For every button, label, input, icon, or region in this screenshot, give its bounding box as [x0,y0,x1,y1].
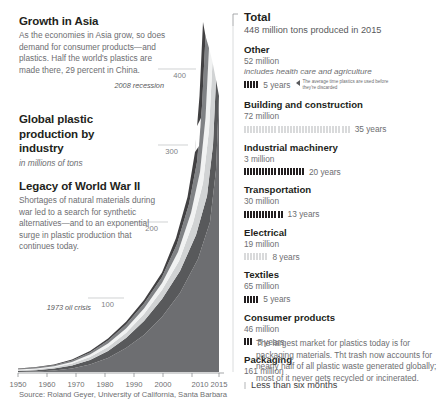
category-electrical: Electrical 19 million 8 years [244,227,444,263]
year-tick [281,168,283,175]
category-textiles: Textiles 65 million 5 years [244,269,444,305]
category-textiles-amount: 65 million [244,281,444,292]
year-tick [259,168,261,175]
year-tick [335,126,337,133]
total-label: Total [244,10,444,24]
year-tick [262,253,264,260]
xlabel-1960: 1960 [39,380,56,389]
year-tick [256,168,258,175]
year-tick [326,126,328,133]
block-growth-in-asia-body: As the economies in Asia grow, so does d… [19,30,169,76]
category-electrical-name: Electrical [244,227,444,239]
category-industrial-machinery-ticks [244,168,305,175]
category-consumer-products-ticks [244,338,253,345]
xlabel-2015: 2015 [211,380,228,389]
year-tick [259,211,261,218]
category-textiles-name: Textiles [244,269,444,281]
source-credit: Source: Roland Geyer, University of Cali… [19,390,227,399]
year-tick [271,168,273,175]
year-tick [338,126,340,133]
year-tick [244,81,246,88]
year-tick [271,126,273,133]
category-other: Other 52 million includes health care an… [244,44,444,90]
year-tick [247,338,249,345]
year-tick [274,211,276,218]
year-tick [253,296,255,303]
year-tick [314,126,316,133]
category-industrial-machinery-amount: 3 million [244,154,444,165]
right-column: Total 448 million tons produced in 2015 … [232,0,447,408]
year-tick [253,168,255,175]
total-block: Total 448 million tons produced in 2015 [244,10,444,36]
category-consumer-products-name: Consumer products [244,312,444,324]
category-other-name: Other [244,44,444,56]
year-tick [265,211,267,218]
year-tick [247,126,249,133]
year-tick [323,126,325,133]
year-tick [265,253,267,260]
xlabel-2010: 2010 [192,380,209,389]
category-packaging-ticks [244,382,247,389]
year-tick [293,126,295,133]
year-tick [256,253,258,260]
year-tick [247,168,249,175]
year-tick [296,168,298,175]
year-tick [278,168,280,175]
year-tick [271,211,273,218]
block-chart-heading-subtitle: in millions of tons [19,158,129,170]
category-building-and-construction-ticks [244,126,351,133]
category-other-bar-row: 5 years The average time plastics are us… [244,79,444,90]
year-tick [250,211,252,218]
xlabel-1990: 1990 [126,380,143,389]
year-tick [262,211,264,218]
year-tick [290,126,292,133]
category-industrial-machinery-bar-row: 20 years [244,166,444,177]
block-growth-in-asia-title: Growth in Asia [19,14,169,28]
category-building-and-construction-amount: 72 million [244,111,444,122]
annotation-2008-recession: 2008 recession [114,81,165,90]
year-tick [305,126,307,133]
block-chart-heading-title: Global plastic production by industry [19,112,129,156]
year-tick [278,126,280,133]
category-electrical-bar-row: 8 years [244,251,444,262]
year-tick [302,126,304,133]
year-tick [247,81,249,88]
year-tick [302,168,304,175]
xlabel-1980: 1980 [97,380,114,389]
category-electrical-years: 8 years [272,252,299,262]
year-tick [256,81,258,88]
block-legacy-wwii-title: Legacy of World War II [19,179,169,193]
category-other-note: includes health care and agriculture [244,67,444,78]
year-tick [274,126,276,133]
category-transportation-ticks [244,211,284,218]
year-tick [342,126,344,133]
x-axis-ticks [18,373,219,377]
year-tick [296,126,298,133]
year-tick [250,81,252,88]
category-transportation-bar-row: 13 years [244,209,444,220]
category-textiles-years: 5 years [263,294,290,304]
year-tick [250,168,252,175]
gridlabel-100: 100 [101,300,114,309]
block-growth-in-asia: Growth in Asia As the economies in Asia … [19,14,169,76]
category-textiles-bar-row: 5 years [244,294,444,305]
category-transportation: Transportation 30 million 13 years [244,184,444,220]
category-other-years: 5 years [263,80,290,90]
year-tick [284,168,286,175]
year-tick [281,126,283,133]
year-tick [250,253,252,260]
year-tick [281,211,283,218]
year-tick [268,126,270,133]
category-industrial-machinery-years: 20 years [309,167,341,177]
year-tick [247,211,249,218]
gridlabel-300: 300 [165,147,178,156]
year-tick [253,81,255,88]
year-tick [256,296,258,303]
industry-category-list: Total 448 million tons produced in 2015 … [244,10,444,392]
year-tick [262,168,264,175]
callout-arrow-icon [296,80,300,86]
year-tick [299,126,301,133]
xlabel-2000: 2000 [155,380,172,389]
year-tick [265,168,267,175]
year-tick [299,168,301,175]
